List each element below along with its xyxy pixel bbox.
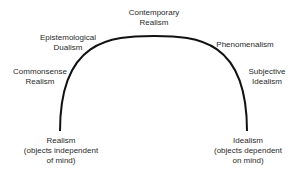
label-phenomenalism: Phenomenalism	[210, 40, 280, 50]
label-line: Subjective	[239, 67, 295, 77]
label-line: of mind)	[16, 156, 106, 166]
label-line: Realism	[122, 18, 186, 28]
label-line: Phenomenalism	[210, 40, 280, 50]
label-line: Commonsense	[8, 67, 72, 77]
label-contemporary-realism: Contemporary Realism	[122, 8, 186, 28]
label-line: Contemporary	[122, 8, 186, 18]
label-commonsense-realism: Commonsense Realism	[8, 67, 72, 87]
label-subjective-idealism: Subjective Idealism	[239, 67, 295, 87]
label-realism-end: Realism (objects independent of mind)	[16, 136, 106, 166]
label-line: Realism	[8, 77, 72, 87]
label-line: Epistemological	[33, 33, 103, 43]
label-line: (objects dependent	[204, 146, 292, 156]
label-idealism-end: Idealism (objects dependent on mind)	[204, 136, 292, 166]
label-line: Realism	[16, 136, 106, 146]
label-line: on mind)	[204, 156, 292, 166]
label-line: Idealism	[204, 136, 292, 146]
label-line: Dualism	[33, 43, 103, 53]
label-line: Idealism	[239, 77, 295, 87]
label-line: (objects independent	[16, 146, 106, 156]
label-epistemological-dualism: Epistemological Dualism	[33, 33, 103, 53]
